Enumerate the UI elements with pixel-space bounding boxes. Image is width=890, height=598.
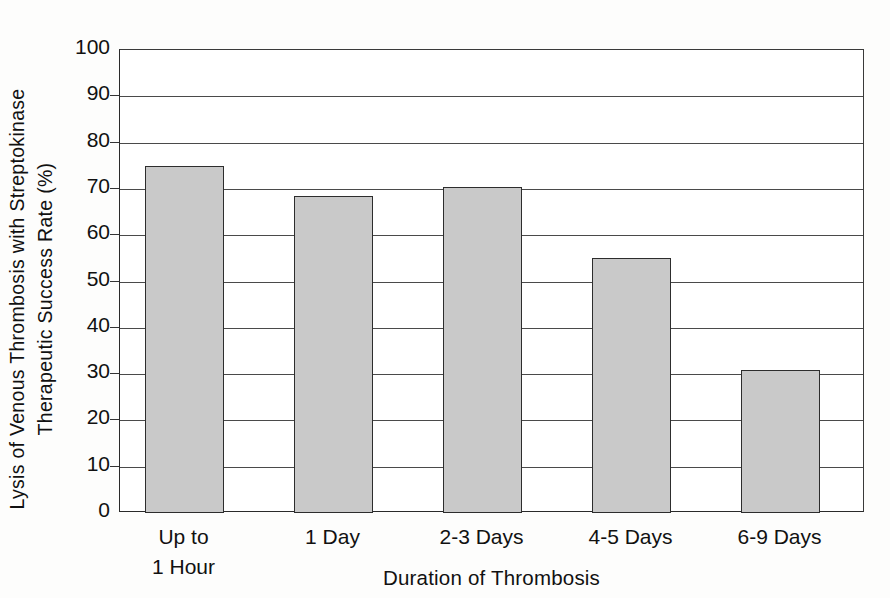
bar	[443, 187, 522, 513]
y-axis-title-line-1: Lysis of Venous Thrombosis with Streptok…	[3, 88, 31, 509]
y-axis-tick-mark	[110, 234, 119, 235]
x-axis-title: Duration of Thrombosis	[119, 566, 864, 590]
y-axis-tick-label: 90	[48, 81, 110, 105]
bar	[592, 258, 671, 513]
y-axis-tick-label: 80	[48, 128, 110, 152]
y-axis-tick-mark	[110, 95, 119, 96]
y-axis-tick-label: 0	[48, 498, 110, 522]
y-axis-tick-mark	[110, 142, 119, 143]
y-axis-title-line-2: Therapeutic Success Rate (%)	[31, 88, 59, 509]
y-axis-tick-mark	[110, 327, 119, 328]
gridline	[120, 96, 863, 97]
x-axis-tick-label: 6-9 Days	[690, 522, 870, 552]
gridline	[120, 143, 863, 144]
y-axis-tick-label: 20	[48, 405, 110, 429]
y-axis-tick-mark	[110, 188, 119, 189]
bar	[145, 166, 224, 513]
y-axis-tick-label: 50	[48, 267, 110, 291]
y-axis-tick-mark	[110, 466, 119, 467]
plot-area	[119, 49, 864, 512]
bar	[741, 370, 820, 514]
bar-chart-figure: Lysis of Venous Thrombosis with Streptok…	[0, 0, 890, 598]
bar	[294, 196, 373, 513]
x-axis-tick-label-line: 6-9 Days	[690, 522, 870, 552]
y-axis-tick-mark	[110, 281, 119, 282]
y-axis-tick-label: 30	[48, 359, 110, 383]
y-axis-tick-label: 60	[48, 220, 110, 244]
y-axis-tick-label: 10	[48, 452, 110, 476]
y-axis-tick-label: 70	[48, 174, 110, 198]
y-axis-tick-label: 40	[48, 313, 110, 337]
y-axis-tick-mark	[110, 373, 119, 374]
y-axis-tick-mark	[110, 419, 119, 420]
y-axis-tick-label: 100	[48, 35, 110, 59]
